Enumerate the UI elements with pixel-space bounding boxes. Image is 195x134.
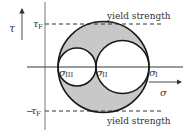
tau-axis-label: τ [9,22,16,35]
neg-tau-f-subscript: F [36,110,41,118]
sigma-axis-label: σ [160,87,168,98]
tau-f-subscript: F [38,23,43,31]
upper-yield-caption: yield strength [106,11,171,21]
mohr-circle-diagram: τ σ τ F − τ F yield strength yield stren… [0,0,195,134]
sigma-ii-subscript: II [102,71,108,79]
sigma-i-subscript: I [155,71,158,79]
lower-yield-caption: yield strength [106,116,171,126]
sigma-iii-subscript: III [65,71,74,79]
